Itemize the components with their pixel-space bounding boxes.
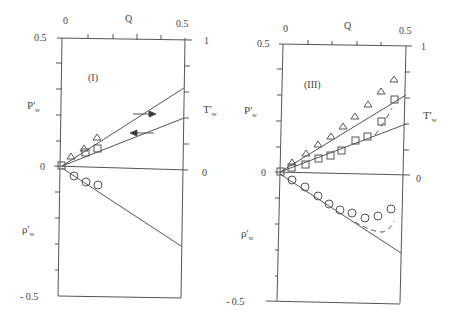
panel-1-y-zero: 0: [40, 162, 45, 172]
panel-3-right-zero: 0: [416, 174, 421, 184]
panel-1-x-label-0: 0: [63, 16, 68, 26]
panel-1-fit-t: [62, 118, 184, 166]
panel-3-y-top: 0.5: [257, 39, 270, 49]
p-w-label-3: P'w: [244, 105, 257, 119]
panel-1-x-label-max: 0.5: [176, 19, 189, 29]
panel-3-y-bottom: - 0.5: [226, 297, 244, 307]
panel-1-circles: [70, 172, 102, 189]
panel-3-fit-p: [280, 95, 406, 172]
rho-w-label: ρ'w: [22, 224, 35, 238]
panel-1-fit-rho: [62, 168, 181, 246]
panel-3-right-top: 1: [421, 42, 426, 52]
rho-w-label-3: ρ'w: [241, 228, 254, 242]
panel-1-y-bottom: - 0.5: [20, 292, 38, 302]
p-w-label: P'w: [27, 100, 40, 114]
panel-3-circles: [288, 176, 395, 222]
panel-3-x-label-0: 0: [283, 24, 288, 34]
panel-1-y-top: 0.5: [34, 33, 47, 43]
panel-1-frame: [54, 34, 192, 298]
panel-3-fit-t: [280, 124, 406, 172]
panel-1-right-top: 1: [204, 36, 209, 46]
panel-3-x-label-max: 0.5: [399, 26, 412, 36]
t-w-label: T'w: [203, 104, 217, 118]
panel-3-label: (III): [304, 80, 321, 90]
panel-3-y-zero: 0: [261, 168, 266, 178]
panel-3-x-axis-title: Q: [344, 21, 351, 31]
panel-3-frame: [266, 40, 412, 304]
panel-1-x-axis-title: Q: [125, 14, 132, 24]
figure-canvas: [0, 0, 450, 322]
panel-1-triangles: [67, 134, 101, 159]
t-w-label-3: T'w: [423, 110, 437, 124]
panel-1-label: (I): [88, 73, 98, 83]
arrow-right-icon: [133, 111, 156, 117]
panel-1-right-zero: 0: [202, 168, 207, 178]
panel-1-fit-p: [62, 88, 184, 166]
